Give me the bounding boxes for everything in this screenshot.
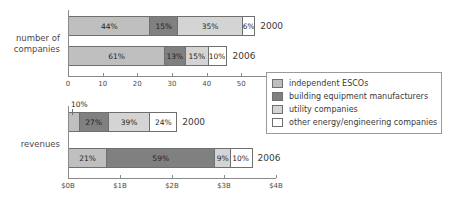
bar-segment: 59% xyxy=(107,149,215,167)
x-axis-tick-label: $2B xyxy=(165,182,179,190)
bar-segment: 39% xyxy=(109,113,151,131)
x-axis-tick-label: $3B xyxy=(217,182,231,190)
chart-legend: independent ESCOsbuilding equipment manu… xyxy=(266,72,442,134)
x-axis-tick-label: 20 xyxy=(133,80,142,88)
segment-value-label: 6% xyxy=(243,22,254,31)
segment-value-label: 59% xyxy=(152,154,169,163)
bar-segment: 13% xyxy=(165,47,185,65)
stacked-bar-chart-figure: number of companies44%15%35%6%200061%13%… xyxy=(0,0,451,201)
bar-year-label: 2000 xyxy=(182,112,205,132)
segment-value-label: 27% xyxy=(85,118,102,127)
x-axis-tick xyxy=(172,73,173,76)
bar-segment: 35% xyxy=(178,17,243,35)
bar-segment: 24% xyxy=(150,113,176,131)
segment-callout-label: 10% xyxy=(71,100,88,109)
legend-color-swatch xyxy=(272,105,283,114)
y-axis-stub xyxy=(68,106,69,178)
x-axis-tick xyxy=(103,73,104,76)
segment-value-label: 39% xyxy=(121,118,138,127)
bar-segment: 10% xyxy=(209,47,225,65)
stacked-bar: 10%27%39%24% xyxy=(68,112,177,132)
x-axis-tick-label: 0 xyxy=(66,80,70,88)
segment-value-label: 10% xyxy=(209,52,225,61)
segment-value-label: 35% xyxy=(202,22,219,31)
legend-item-label: independent ESCOs xyxy=(289,79,368,88)
x-axis-tick xyxy=(120,175,121,178)
panel-category-label: number of companies xyxy=(2,33,60,54)
x-axis-tick xyxy=(276,175,277,178)
x-axis-tick xyxy=(137,73,138,76)
legend-item: other energy/engineering companies xyxy=(272,116,436,129)
bar-segment: 15% xyxy=(186,47,210,65)
x-axis-tick xyxy=(68,175,69,178)
panel-category-label: revenues xyxy=(2,139,60,150)
bar-segment: 15% xyxy=(150,17,178,35)
x-axis-tick-label: 10 xyxy=(98,80,107,88)
bar-segment: 61% xyxy=(69,47,165,65)
bar-segment: 21% xyxy=(69,149,107,167)
stacked-bar: 44%15%35%6% xyxy=(68,16,255,36)
segment-value-label: 13% xyxy=(166,52,183,61)
stacked-bar: 21%59%9%10% xyxy=(68,148,253,168)
x-axis-tick-label: 50 xyxy=(237,80,246,88)
x-axis-tick-label: 30 xyxy=(168,80,177,88)
bar-year-label: 2006 xyxy=(232,46,255,66)
bar-year-label: 2000 xyxy=(260,16,283,36)
segment-value-label: 10% xyxy=(69,118,80,127)
stacked-bar: 61%13%15%10% xyxy=(68,46,227,66)
bar-year-label: 2006 xyxy=(258,148,281,168)
callout-leader-line xyxy=(72,109,73,115)
x-axis-tick xyxy=(207,73,208,76)
legend-color-swatch xyxy=(272,92,283,101)
legend-color-swatch xyxy=(272,118,283,127)
x-axis-tick xyxy=(224,175,225,178)
segment-value-label: 9% xyxy=(217,154,229,163)
bar-segment: 10% xyxy=(69,113,80,131)
segment-value-label: 10% xyxy=(232,154,249,163)
x-axis-tick xyxy=(172,175,173,178)
segment-value-label: 21% xyxy=(79,154,96,163)
x-axis-tick-label: 40 xyxy=(202,80,211,88)
x-axis-line xyxy=(68,76,276,77)
x-axis-tick-label: $4B xyxy=(269,182,283,190)
legend-item: building equipment manufacturers xyxy=(272,90,436,103)
segment-value-label: 61% xyxy=(108,52,125,61)
legend-item: independent ESCOs xyxy=(272,77,436,90)
bar-segment: 44% xyxy=(69,17,150,35)
legend-item-label: other energy/engineering companies xyxy=(289,118,437,127)
bar-segment: 10% xyxy=(231,149,249,167)
x-axis-tick-label: $0B xyxy=(61,182,75,190)
y-axis-stub xyxy=(68,10,69,76)
x-axis-line xyxy=(68,178,276,179)
legend-item-label: building equipment manufacturers xyxy=(289,92,428,101)
legend-item-label: utility companies xyxy=(289,105,358,114)
bar-segment: 9% xyxy=(215,149,231,167)
legend-item: utility companies xyxy=(272,103,436,116)
segment-value-label: 15% xyxy=(156,22,173,31)
x-axis-tick xyxy=(68,73,69,76)
segment-value-label: 24% xyxy=(155,118,172,127)
bar-segment: 27% xyxy=(80,113,109,131)
legend-color-swatch xyxy=(272,79,283,88)
x-axis-tick xyxy=(241,73,242,76)
segment-value-label: 44% xyxy=(101,22,118,31)
bar-segment: 6% xyxy=(243,17,254,35)
x-axis-tick-label: $1B xyxy=(113,182,127,190)
segment-value-label: 15% xyxy=(188,52,205,61)
